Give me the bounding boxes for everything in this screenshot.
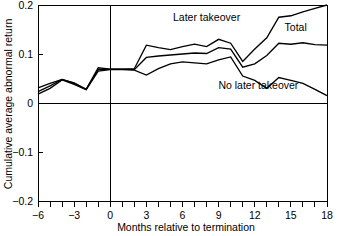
- x-tick-label: 3: [143, 209, 149, 221]
- y-tick-label: 0.2: [18, 0, 33, 11]
- x-tick-label: 18: [321, 209, 333, 221]
- x-axis-tick-labels: −6−30369121518: [32, 209, 333, 221]
- y-tick-label: −0.1: [12, 146, 33, 158]
- y-tick-label: 0: [27, 97, 33, 109]
- annotation-total: Total: [285, 21, 307, 33]
- x-tick-label: −3: [68, 209, 80, 221]
- x-tick-label: 12: [249, 209, 261, 221]
- x-tick-label: 15: [285, 209, 297, 221]
- y-tick-label: −0.2: [12, 195, 33, 207]
- y-tick-label: 0.1: [18, 48, 33, 60]
- chart-figure: −6−30369121518 0.20.10−0.1−0.2 Later tak…: [0, 0, 343, 236]
- y-axis-title: Cumulative average abnormal return: [2, 19, 14, 190]
- annotation-later-takeover: Later takeover: [173, 11, 241, 23]
- x-tick-label: 9: [216, 209, 222, 221]
- cumulative-abnormal-return-chart: −6−30369121518 0.20.10−0.1−0.2 Later tak…: [0, 0, 343, 236]
- x-axis-title: Months relative to termination: [117, 221, 255, 233]
- x-tick-label: 0: [107, 209, 113, 221]
- x-tick-label: −6: [32, 209, 44, 221]
- annotation-no-later-takeover: No later takeover: [218, 79, 298, 91]
- x-tick-label: 6: [180, 209, 186, 221]
